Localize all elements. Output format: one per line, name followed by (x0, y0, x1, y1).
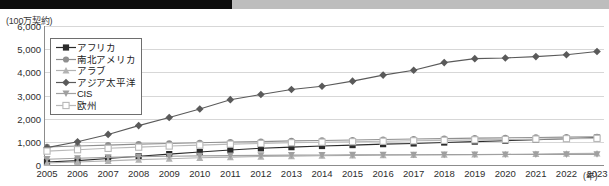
y-tick-label: 3,000 (1, 90, 41, 101)
series-marker (105, 145, 111, 151)
series-marker (411, 138, 417, 144)
x-tick-label: 2017 (403, 168, 424, 179)
y-tick-label: 6,000 (1, 21, 41, 32)
series-marker (288, 86, 296, 94)
legend-label: アフリカ (77, 42, 116, 53)
series-marker (136, 144, 142, 150)
series-marker (502, 136, 508, 142)
series-marker (593, 48, 601, 56)
series-marker (196, 105, 204, 113)
legend-item: アラブ (55, 65, 135, 77)
x-tick-label: 2013 (281, 168, 302, 179)
y-tick-label: 1,000 (1, 136, 41, 147)
series-marker (379, 71, 387, 79)
legend-marker-icon (55, 100, 77, 111)
x-tick-label: 2005 (36, 168, 57, 179)
legend-marker-icon (55, 88, 77, 99)
x-tick-label: 2021 (525, 168, 546, 179)
series-marker (472, 137, 478, 143)
x-tick-label: 2011 (220, 168, 240, 179)
y-axis-tick-labels: 01,0002,0003,0004,0005,0006,000 (0, 26, 41, 165)
legend-label: アラブ (77, 65, 106, 76)
series-marker (74, 147, 80, 153)
x-tick-label: 2009 (159, 168, 180, 179)
series-marker (257, 91, 265, 99)
series-marker (380, 138, 386, 144)
legend-label: 欧州 (77, 100, 96, 111)
x-tick-label: 2019 (464, 168, 485, 179)
x-tick-label: 2006 (67, 168, 88, 179)
y-tick-label: 5,000 (1, 44, 41, 55)
series-marker (594, 135, 600, 141)
series-marker (166, 143, 172, 149)
series-marker (104, 131, 112, 139)
legend-label: アジア太平洋 (77, 77, 135, 88)
legend-marker-icon (55, 65, 77, 76)
series-marker (227, 141, 233, 147)
legend-label: CIS (77, 88, 92, 99)
y-tick-label: 0 (1, 160, 41, 171)
series-marker (563, 136, 569, 142)
x-tick-label: 2010 (189, 168, 210, 179)
series-marker (471, 55, 479, 63)
series-marker (440, 59, 448, 67)
series-marker (532, 53, 540, 61)
series-marker (441, 137, 447, 143)
x-tick-label: 2007 (98, 168, 119, 179)
legend-item: アフリカ (55, 42, 135, 54)
series-marker (165, 114, 173, 122)
y-tick-label: 2,000 (1, 113, 41, 124)
x-tick-label: 2018 (434, 168, 455, 179)
legend-label: 南北アメリカ (77, 54, 135, 65)
series-marker (135, 122, 143, 130)
x-tick-label: 2008 (128, 168, 149, 179)
x-tick-label: 2016 (373, 168, 394, 179)
x-axis-line (44, 165, 604, 166)
legend-item: 南北アメリカ (55, 54, 135, 66)
x-axis-unit-label: (年) (583, 169, 598, 181)
series-marker (349, 139, 355, 145)
x-tick-label: 2015 (342, 168, 363, 179)
x-tick-label: 2020 (495, 168, 516, 179)
x-tick-label: 2022 (556, 168, 577, 179)
series-marker (502, 54, 510, 62)
page-scan-artifact-bar (0, 0, 609, 9)
series-marker (288, 140, 294, 146)
legend-item: アジア太平洋 (55, 77, 135, 89)
x-tick-label: 2014 (311, 168, 332, 179)
series-marker (197, 142, 203, 148)
y-tick-label: 4,000 (1, 67, 41, 78)
series-marker (227, 96, 235, 104)
series-marker (258, 140, 264, 146)
legend-marker-icon (55, 77, 77, 88)
series-marker (533, 136, 539, 142)
legend-item: CIS (55, 88, 135, 100)
legend-item: 欧州 (55, 100, 135, 112)
legend-marker-icon (55, 54, 77, 65)
series-marker (319, 139, 325, 145)
series-marker (44, 148, 50, 154)
series-marker (318, 82, 326, 90)
page-scan-artifact-black (0, 0, 232, 9)
chart-legend: アフリカ南北アメリカアラブアジア太平洋CIS欧州 (50, 38, 142, 115)
chart-page: (100万契約) 01,0002,0003,0004,0005,0006,000… (0, 0, 609, 186)
series-marker (349, 77, 357, 85)
x-tick-label: 2012 (250, 168, 271, 179)
series-marker (410, 66, 418, 74)
series-marker (563, 51, 571, 59)
legend-marker-icon (55, 42, 77, 53)
